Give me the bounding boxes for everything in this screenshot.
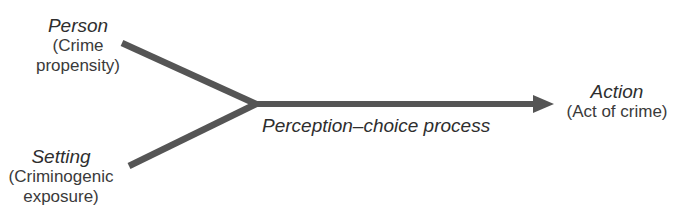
person-setting-action-diagram: Person (Crime propensity) Setting (Crimi… (0, 0, 682, 223)
action-subtitle: (Act of crime) (553, 102, 681, 122)
person-subtitle-line1: (Crime (18, 36, 138, 56)
node-person: Person (Crime propensity) (18, 16, 138, 76)
action-title: Action (553, 82, 681, 102)
setting-subtitle-line1: (Criminogenic (0, 167, 122, 187)
person-subtitle-line2: propensity) (18, 56, 138, 76)
person-title: Person (18, 16, 138, 36)
node-setting: Setting (Criminogenic exposure) (0, 147, 122, 207)
arrowhead-icon (533, 95, 554, 113)
person-to-junction-line (122, 43, 256, 104)
node-action: Action (Act of crime) (553, 82, 681, 122)
setting-subtitle-line2: exposure) (0, 187, 122, 207)
process-label: Perception–choice process (262, 115, 490, 137)
setting-to-junction-line (129, 104, 256, 166)
setting-title: Setting (0, 147, 122, 167)
